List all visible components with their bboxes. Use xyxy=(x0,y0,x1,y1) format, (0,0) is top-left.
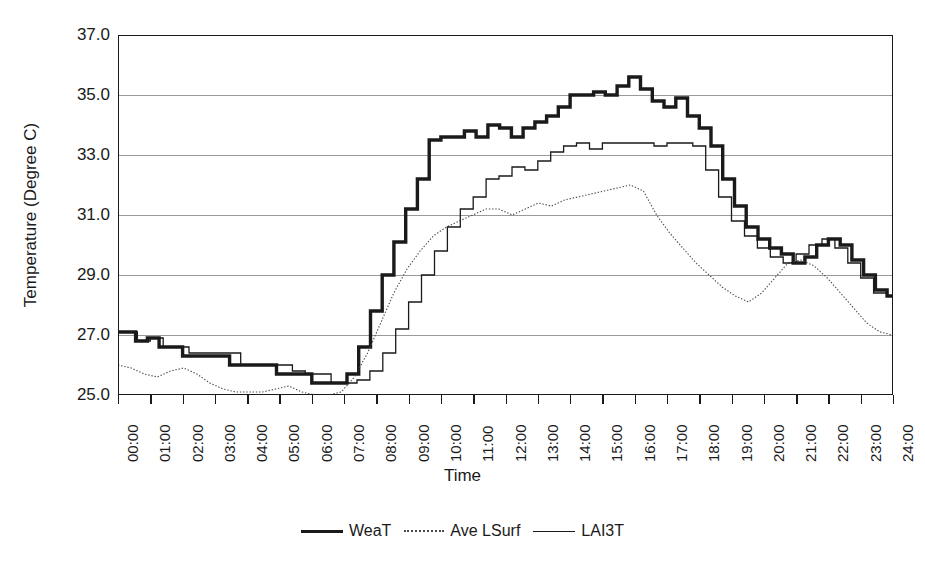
legend-label-weat: WeaT xyxy=(349,522,391,540)
x-axis-tick-label: 00:00 xyxy=(124,424,141,462)
chart-legend: WeaT Ave LSurf LAI3T xyxy=(0,518,925,544)
plot-area xyxy=(118,35,893,395)
y-axis-tick-label: 35.0 xyxy=(77,85,110,105)
x-axis-tick-label: 15:00 xyxy=(608,424,625,462)
legend-item-ave-lsurf: Ave LSurf xyxy=(404,522,520,540)
x-axis-tick-label: 08:00 xyxy=(382,424,399,462)
x-axis-tick-label: 10:00 xyxy=(447,424,464,462)
legend-item-lai3t: LAI3T xyxy=(533,522,624,540)
x-axis-tick-label: 09:00 xyxy=(415,424,432,462)
x-axis-tick-label: 05:00 xyxy=(285,424,302,462)
x-axis-tick-label: 16:00 xyxy=(641,424,658,462)
x-axis-tick-label: 22:00 xyxy=(834,424,851,462)
x-axis-title: Time xyxy=(0,466,925,486)
x-axis-tick-label: 13:00 xyxy=(544,424,561,462)
x-axis-ticks xyxy=(118,395,893,404)
y-axis-title-text: Temperature (Degree C) xyxy=(21,123,41,307)
legend-item-weat: WeaT xyxy=(301,522,391,540)
y-axis-tick-label: 31.0 xyxy=(77,205,110,225)
x-axis-tick-label: 02:00 xyxy=(189,424,206,462)
x-axis-tick-label: 11:00 xyxy=(479,426,496,462)
x-axis-tick-label: 18:00 xyxy=(705,424,722,462)
y-axis-tick-label: 25.0 xyxy=(77,385,110,405)
legend-swatch-ave-lsurf xyxy=(404,530,444,532)
x-axis-tick-label: 19:00 xyxy=(738,424,755,462)
x-axis-tick-label: 01:00 xyxy=(156,424,173,462)
chart-figure: { "chart_data": { "type": "line", "title… xyxy=(0,0,925,565)
legend-swatch-lai3t xyxy=(533,531,575,532)
legend-label-ave-lsurf: Ave LSurf xyxy=(450,522,520,540)
legend-label-lai3t: LAI3T xyxy=(581,522,624,540)
x-axis-tick-label: 04:00 xyxy=(253,424,270,462)
x-axis-tick-label: 03:00 xyxy=(221,424,238,462)
y-axis-tick-label: 37.0 xyxy=(77,25,110,45)
x-axis-tick-label: 21:00 xyxy=(802,424,819,462)
y-axis-tick-label: 29.0 xyxy=(77,265,110,285)
legend-swatch-weat xyxy=(301,530,343,533)
y-axis-tick-label: 33.0 xyxy=(77,145,110,165)
x-axis-tick-labels: 00:0001:0002:0003:0004:0005:0006:0007:00… xyxy=(118,406,893,464)
x-axis-tick-label: 07:00 xyxy=(350,424,367,462)
x-axis-tick-label: 23:00 xyxy=(867,424,884,462)
x-axis-tick-label: 17:00 xyxy=(673,424,690,462)
x-axis-tick-label: 24:00 xyxy=(899,424,916,462)
x-axis-tick-label: 06:00 xyxy=(318,424,335,462)
y-axis-title: Temperature (Degree C) xyxy=(14,0,48,430)
x-axis-tick-label: 20:00 xyxy=(770,424,787,462)
x-axis-tick-label: 12:00 xyxy=(512,424,529,462)
x-axis-tick-label: 14:00 xyxy=(576,424,593,462)
plot-frame xyxy=(118,35,893,395)
y-axis-tick-label: 27.0 xyxy=(77,325,110,345)
